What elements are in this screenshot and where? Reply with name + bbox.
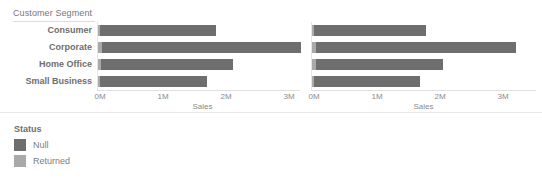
row-label-corporate[interactable]: Corporate	[49, 39, 92, 56]
row-label-home-office[interactable]: Home Office	[39, 56, 92, 73]
bar-stack[interactable]	[312, 42, 516, 53]
bar-row	[312, 73, 537, 90]
chart-legend-divider	[0, 112, 542, 113]
bar-stack[interactable]	[312, 25, 426, 36]
bar-stack[interactable]	[98, 25, 216, 36]
bar-row	[98, 22, 301, 39]
bar-stack[interactable]	[98, 59, 233, 70]
legend-item-returned[interactable]: Returned	[14, 154, 174, 168]
bar-segment-null[interactable]	[100, 76, 208, 87]
x-axis-1: Sales 0M1M2M3M	[97, 90, 300, 112]
legend-swatch-null-icon	[14, 139, 26, 151]
chart-panel-2	[311, 22, 537, 90]
customer-segment-header: Customer Segment	[13, 8, 92, 18]
bar-segment-null[interactable]	[102, 42, 301, 53]
bar-row	[98, 39, 301, 56]
x-tick-label: 0M	[94, 92, 105, 101]
x-tick-label: 1M	[157, 92, 168, 101]
axis-line	[311, 90, 536, 91]
bar-row	[312, 39, 537, 56]
x-axis-title-2: Sales	[311, 102, 536, 111]
x-axis-title-1: Sales	[97, 102, 304, 111]
bar-segment-null[interactable]	[100, 25, 216, 36]
bar-row	[98, 56, 301, 73]
plot-area-1[interactable]	[98, 22, 301, 90]
bar-segment-null[interactable]	[314, 76, 420, 87]
bar-stack[interactable]	[98, 42, 301, 53]
x-tick-label: 2M	[220, 92, 231, 101]
bar-segment-null[interactable]	[316, 42, 516, 53]
row-label-small-business[interactable]: Small Business	[25, 73, 92, 90]
bar-stack[interactable]	[312, 59, 443, 70]
bar-segment-null[interactable]	[101, 59, 233, 70]
axis-line	[97, 90, 300, 91]
legend-label-returned: Returned	[33, 156, 70, 166]
x-tick-label: 1M	[371, 92, 382, 101]
legend: Status Null Returned	[14, 124, 174, 170]
x-axis-2: Sales 0M1M2M3M	[311, 90, 536, 112]
bar-row	[98, 73, 301, 90]
chart-block: Customer Segment Consumer Corporate Home…	[0, 0, 542, 112]
bar-segment-null[interactable]	[314, 25, 426, 36]
plot-area-2[interactable]	[312, 22, 537, 90]
x-tick-label: 2M	[434, 92, 445, 101]
bar-segment-null[interactable]	[316, 59, 443, 70]
legend-swatch-returned-icon	[14, 155, 26, 167]
row-label-gutter: Consumer Corporate Home Office Small Bus…	[0, 22, 96, 90]
legend-label-null: Null	[33, 140, 49, 150]
bar-stack[interactable]	[312, 76, 420, 87]
legend-title: Status	[14, 124, 174, 134]
x-tick-label: 0M	[308, 92, 319, 101]
bar-row	[312, 56, 537, 73]
bar-stack[interactable]	[98, 76, 207, 87]
chart-panel-1	[97, 22, 301, 90]
x-tick-label: 3M	[497, 92, 508, 101]
row-label-consumer[interactable]: Consumer	[47, 22, 92, 39]
bar-row	[312, 22, 537, 39]
visualization-root: Customer Segment Consumer Corporate Home…	[0, 0, 542, 178]
legend-item-null[interactable]: Null	[14, 138, 174, 152]
x-tick-label: 3M	[283, 92, 294, 101]
